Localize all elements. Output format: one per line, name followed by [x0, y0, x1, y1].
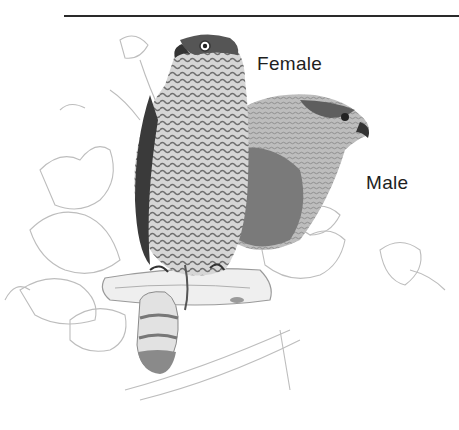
- female-label: Female: [257, 53, 322, 75]
- female-hawk: [134, 34, 248, 374]
- hawk-illustration: [0, 0, 459, 430]
- male-label: Male: [366, 172, 408, 194]
